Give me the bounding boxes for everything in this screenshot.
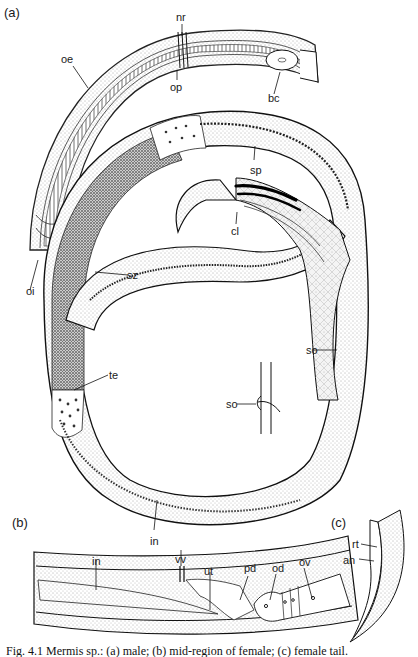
label-buccal-capsule: bc [268, 93, 280, 104]
label-cloaca: cl [231, 226, 239, 237]
label-op: op [170, 82, 182, 93]
label-uterus: ut [204, 566, 213, 577]
label-intestine-a: in [150, 536, 159, 547]
label-sperm-zone: sz [127, 270, 138, 281]
label-spicule: sp [250, 165, 262, 176]
label-anus: an [343, 555, 355, 566]
label-rectum: rt [352, 539, 359, 550]
panel-label-b: (b) [12, 516, 28, 529]
panel-label-a: (a) [4, 6, 20, 19]
panel-label-c: (c) [331, 516, 346, 529]
label-oi: oi [26, 286, 35, 297]
label-sensory-organ-2: so [226, 399, 238, 410]
label-oesophagus: oe [61, 54, 73, 65]
label-nerve-ring: nr [176, 12, 186, 23]
label-sensory-organ-1: so [306, 345, 318, 356]
label-vulva: vv [175, 554, 186, 565]
female-tail [350, 510, 404, 642]
label-oviduct: od [272, 563, 284, 574]
female-mid-region [34, 536, 358, 634]
label-pd: pd [244, 563, 256, 574]
label-ovary: ov [299, 557, 311, 568]
label-intestine-b: in [92, 556, 101, 567]
figure-caption: Fig. 4.1 Mermis sp.: (a) male; (b) mid-r… [6, 645, 418, 657]
label-testis: te [109, 370, 118, 381]
